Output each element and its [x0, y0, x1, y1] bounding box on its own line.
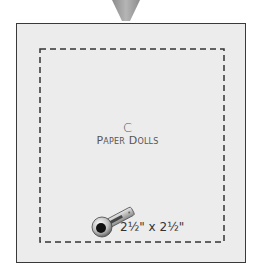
block-letter: C	[0, 120, 255, 135]
block-name: Paper Dolls	[0, 134, 255, 147]
cut-size-label: 2½" x 2½"	[120, 220, 184, 234]
pointer-arrow-icon	[111, 0, 141, 23]
